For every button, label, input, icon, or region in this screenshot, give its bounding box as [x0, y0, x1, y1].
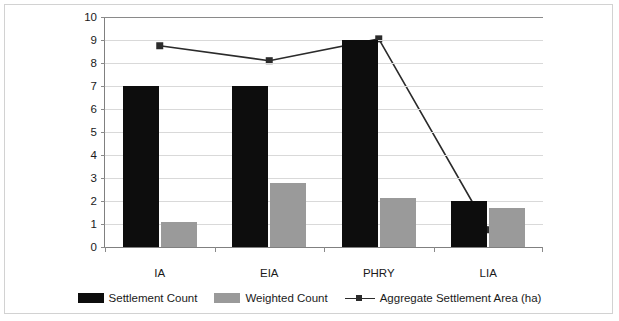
y-axis-tick-mark: [101, 63, 105, 64]
legend-label: Weighted Count: [245, 292, 327, 304]
gridline: [105, 109, 543, 110]
legend-label: Aggregate Settlement Area (ha): [380, 292, 542, 304]
y-axis-tick-mark: [101, 86, 105, 87]
bar-lia-settlement-count: [451, 201, 487, 247]
plot-area: 109876543210IAEIAPHRYLIA: [104, 17, 543, 248]
legend-item-0: Settlement Count: [78, 292, 198, 304]
chart-legend: Settlement CountWeighted CountAggregate …: [5, 292, 614, 304]
chart-frame: 109876543210IAEIAPHRYLIA Settlement Coun…: [4, 4, 613, 314]
gray-square-swatch-icon: [214, 293, 240, 303]
y-axis-tick-label: 3: [61, 172, 97, 184]
x-axis-tick-mark: [542, 247, 543, 252]
y-axis-tick-label: 6: [61, 103, 97, 115]
y-axis-tick-label: 8: [61, 57, 97, 69]
x-axis-label-lia: LIA: [480, 267, 497, 279]
bar-eia-settlement-count: [232, 86, 268, 247]
line-with-square-marker-icon: [345, 293, 375, 303]
gridline: [105, 132, 543, 133]
gridline: [105, 17, 543, 18]
y-axis-tick-label: 9: [61, 34, 97, 46]
y-axis-tick-label: 4: [61, 149, 97, 161]
y-axis-tick-mark: [101, 109, 105, 110]
line-marker-ia: [156, 42, 163, 49]
y-axis-tick-mark: [101, 17, 105, 18]
gridline: [105, 40, 543, 41]
gridline: [105, 155, 543, 156]
x-axis-label-ia: IA: [154, 267, 165, 279]
y-axis-tick-mark: [101, 40, 105, 41]
x-axis-tick-mark: [434, 247, 435, 252]
legend-label: Settlement Count: [109, 292, 198, 304]
y-axis-tick-label: 0: [61, 241, 97, 253]
y-axis-tick-label: 10: [61, 11, 97, 23]
bar-phry-weighted-count: [380, 198, 416, 247]
bar-ia-weighted-count: [161, 222, 197, 247]
y-axis-tick-mark: [101, 178, 105, 179]
x-axis-tick-mark: [105, 247, 106, 252]
y-axis-tick-mark: [101, 155, 105, 156]
y-axis-tick-label: 1: [61, 218, 97, 230]
x-axis-tick-mark: [324, 247, 325, 252]
bar-eia-weighted-count: [270, 183, 306, 247]
bar-phry-settlement-count: [342, 40, 378, 247]
y-axis-tick-label: 5: [61, 126, 97, 138]
black-square-swatch-icon: [78, 293, 104, 303]
y-axis-tick-mark: [101, 201, 105, 202]
y-axis-tick-label: 2: [61, 195, 97, 207]
x-axis-tick-mark: [215, 247, 216, 252]
gridline: [105, 86, 543, 87]
x-axis-label-phry: PHRY: [363, 267, 395, 279]
y-axis-tick-mark: [101, 224, 105, 225]
x-axis-label-eia: EIA: [260, 267, 279, 279]
bar-ia-settlement-count: [123, 86, 159, 247]
bar-lia-weighted-count: [489, 208, 525, 247]
gridline: [105, 178, 543, 179]
y-axis-tick-label: 7: [61, 80, 97, 92]
legend-item-2: Aggregate Settlement Area (ha): [345, 292, 542, 304]
y-axis-tick-mark: [101, 132, 105, 133]
legend-item-1: Weighted Count: [214, 292, 327, 304]
gridline: [105, 63, 543, 64]
